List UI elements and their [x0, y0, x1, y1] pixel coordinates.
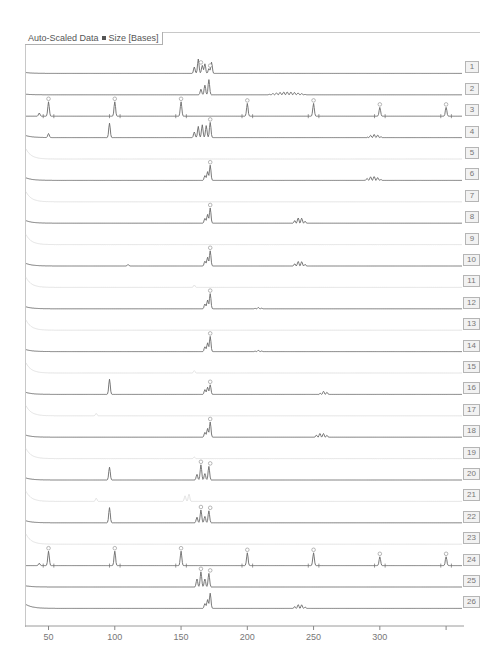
lane-trace-7: [26, 192, 462, 202]
lane-label[interactable]: 3: [465, 104, 479, 116]
x-tick-label: 50: [34, 632, 64, 642]
lane-label[interactable]: 10: [463, 254, 480, 266]
lane-trace-8: [26, 208, 462, 223]
electropherogram-plot: [0, 0, 501, 668]
lane-trace-9: [26, 235, 462, 245]
peak-marker[interactable]: [179, 546, 183, 550]
x-tick-label: 300: [365, 632, 395, 642]
lane-label[interactable]: 23: [463, 532, 480, 544]
lane-trace-14: [26, 336, 462, 351]
peak-marker[interactable]: [444, 103, 448, 107]
lane-trace-21: [26, 491, 462, 501]
lane-label[interactable]: 5: [465, 147, 479, 159]
lane-label[interactable]: 12: [463, 297, 480, 309]
lane-label[interactable]: 24: [463, 554, 480, 566]
lane-label[interactable]: 9: [465, 233, 479, 245]
lane-trace-15: [26, 363, 462, 373]
peak-marker[interactable]: [47, 97, 51, 101]
lane-label[interactable]: 8: [465, 211, 479, 223]
lane-label[interactable]: 19: [463, 447, 480, 459]
lane-label[interactable]: 21: [463, 489, 480, 501]
lane-label[interactable]: 13: [463, 318, 480, 330]
peak-marker[interactable]: [199, 505, 203, 509]
lane-label[interactable]: 11: [463, 275, 480, 287]
lane-label[interactable]: 6: [465, 168, 479, 180]
peak-marker[interactable]: [246, 99, 250, 103]
lane-trace-22: [26, 508, 462, 523]
peak-marker[interactable]: [208, 203, 212, 207]
peak-marker[interactable]: [208, 462, 212, 466]
peak-marker[interactable]: [312, 99, 316, 103]
peak-marker[interactable]: [378, 103, 382, 107]
x-tick-label: 150: [166, 632, 196, 642]
x-tick-label: 100: [100, 632, 130, 642]
lane-trace-6: [26, 165, 462, 180]
peak-marker[interactable]: [208, 506, 212, 510]
peak-marker[interactable]: [208, 332, 212, 336]
lane-trace-26: [26, 593, 462, 608]
lane-trace-18: [26, 422, 462, 437]
peak-marker[interactable]: [199, 61, 203, 65]
peak-marker[interactable]: [208, 417, 212, 421]
peak-marker[interactable]: [208, 380, 212, 384]
peak-marker[interactable]: [208, 246, 212, 250]
x-tick-label: 250: [299, 632, 329, 642]
peak-marker[interactable]: [378, 552, 382, 556]
lane-trace-2: [26, 80, 462, 95]
peak-marker[interactable]: [199, 460, 203, 464]
lane-trace-4: [26, 122, 462, 137]
lane-label[interactable]: 1: [465, 61, 479, 73]
lane-trace-19: [26, 449, 462, 459]
lane-label[interactable]: 25: [463, 575, 480, 587]
lane-label[interactable]: 7: [465, 190, 479, 202]
lane-trace-13: [26, 320, 462, 330]
peak-marker[interactable]: [208, 289, 212, 293]
lane-trace-20: [26, 465, 462, 480]
peak-marker[interactable]: [47, 546, 51, 550]
lane-label[interactable]: 16: [463, 382, 480, 394]
lane-label[interactable]: 2: [465, 83, 479, 95]
peak-marker[interactable]: [444, 552, 448, 556]
lane-label[interactable]: 20: [463, 468, 480, 480]
lane-label[interactable]: 15: [463, 361, 480, 373]
x-tick-label: 200: [232, 632, 262, 642]
peak-marker[interactable]: [199, 567, 203, 571]
peak-marker[interactable]: [179, 97, 183, 101]
peak-marker[interactable]: [113, 546, 117, 550]
peak-marker[interactable]: [246, 548, 250, 552]
lane-trace-12: [26, 294, 462, 309]
lane-trace-3: [26, 102, 462, 116]
lane-label[interactable]: 18: [463, 425, 480, 437]
lane-trace-11: [26, 277, 462, 287]
peak-marker[interactable]: [208, 160, 212, 164]
lane-trace-17: [26, 406, 462, 416]
peak-marker[interactable]: [208, 118, 212, 122]
lane-trace-1: [26, 59, 462, 73]
lane-label[interactable]: 14: [463, 340, 480, 352]
lane-trace-5: [26, 149, 462, 159]
lane-trace-23: [26, 534, 462, 544]
lane-label[interactable]: 22: [463, 511, 480, 523]
peak-marker[interactable]: [113, 97, 117, 101]
lane-trace-25: [26, 572, 462, 587]
peak-marker[interactable]: [312, 548, 316, 552]
peak-marker[interactable]: [208, 64, 212, 68]
lane-trace-10: [26, 251, 462, 266]
lane-label[interactable]: 17: [463, 404, 480, 416]
lane-trace-16: [26, 379, 462, 394]
lane-label[interactable]: 26: [463, 596, 480, 608]
lane-trace-24: [26, 551, 462, 565]
lane-label[interactable]: 4: [465, 126, 479, 138]
peak-marker[interactable]: [208, 569, 212, 573]
